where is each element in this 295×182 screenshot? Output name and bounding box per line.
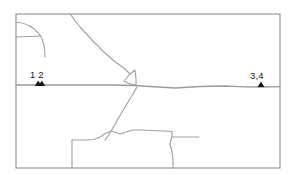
site-location-map: 1 23,4 <box>0 0 295 182</box>
site-label-site-1-2: 1 2 <box>30 69 44 80</box>
map-canvas: 1 23,4 <box>0 0 295 182</box>
map-border-frame <box>16 14 280 168</box>
site-label-site-3-4: 3,4 <box>250 70 264 81</box>
